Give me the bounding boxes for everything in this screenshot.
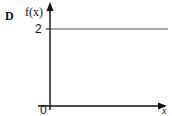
chart-figure: D f(x) 2 0 x bbox=[0, 0, 172, 116]
panel-label: D bbox=[5, 10, 14, 22]
x-axis-label: x bbox=[162, 106, 166, 116]
y-axis-arrow-icon bbox=[47, 2, 54, 11]
y-tick-label: 2 bbox=[35, 23, 42, 35]
origin-label: 0 bbox=[40, 104, 47, 116]
y-axis-label: f(x) bbox=[25, 6, 43, 18]
